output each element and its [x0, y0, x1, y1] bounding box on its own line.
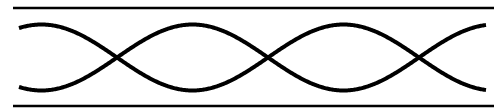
standing-wave-diagram	[0, 0, 504, 109]
wave-envelope-lower	[19, 25, 486, 91]
